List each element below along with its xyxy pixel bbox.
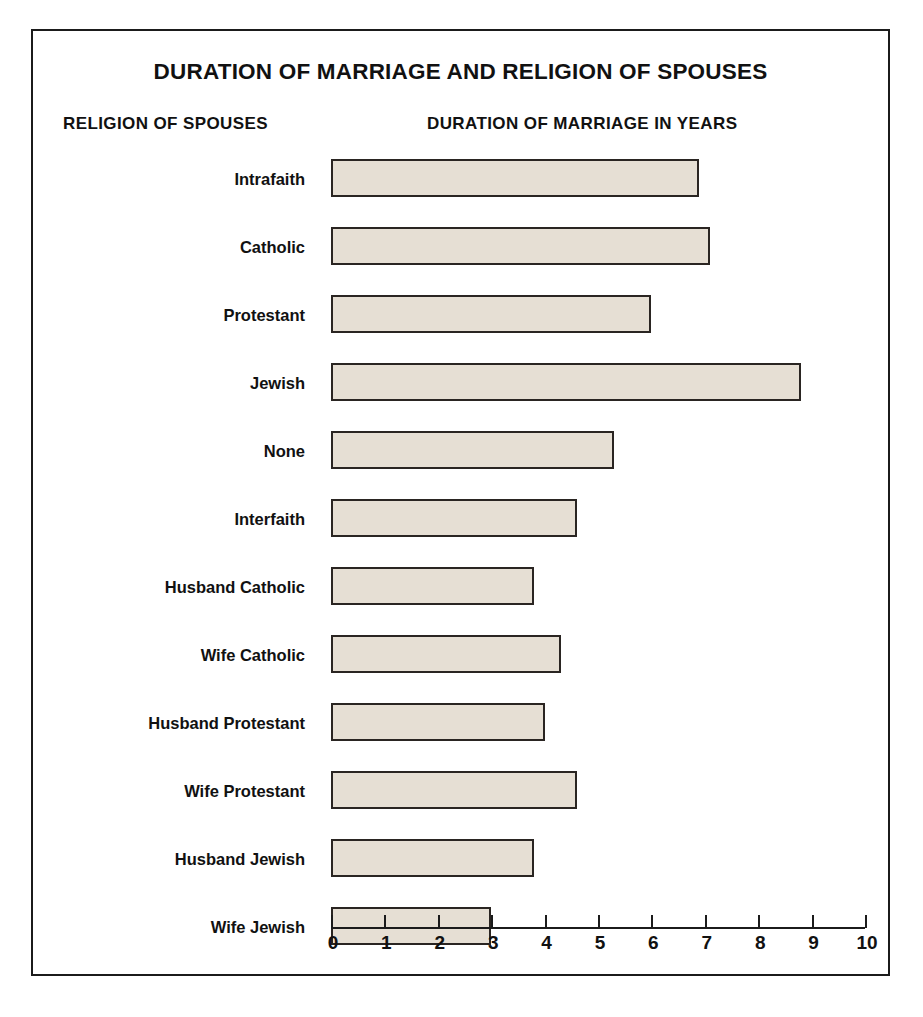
bar-category-label: Intrafaith bbox=[33, 157, 305, 201]
bar-row: None bbox=[33, 429, 888, 473]
x-axis-tick-label: 5 bbox=[585, 932, 615, 954]
bar-category-label: Protestant bbox=[33, 293, 305, 337]
bar-category-label: Jewish bbox=[33, 361, 305, 405]
chart-frame: DURATION OF MARRIAGE AND RELIGION OF SPO… bbox=[31, 29, 890, 976]
bar-category-label: Husband Catholic bbox=[33, 565, 305, 609]
bar bbox=[331, 635, 561, 673]
bar-row: Husband Catholic bbox=[33, 565, 888, 609]
bar-category-label: Husband Protestant bbox=[33, 701, 305, 745]
bar-category-label: Wife Protestant bbox=[33, 769, 305, 813]
bar-row: Husband Protestant bbox=[33, 701, 888, 745]
x-axis-tick-label: 9 bbox=[799, 932, 829, 954]
bar-category-label: Husband Jewish bbox=[33, 837, 305, 881]
bar bbox=[331, 295, 651, 333]
x-axis-tick-label: 6 bbox=[638, 932, 668, 954]
bar-row: Wife Catholic bbox=[33, 633, 888, 677]
bar-row: Interfaith bbox=[33, 497, 888, 541]
bar bbox=[331, 227, 710, 265]
plot-area: IntrafaithCatholicProtestantJewishNoneIn… bbox=[33, 31, 888, 974]
bar-row: Jewish bbox=[33, 361, 888, 405]
bar bbox=[331, 703, 545, 741]
bar-category-label: None bbox=[33, 429, 305, 473]
bar bbox=[331, 431, 614, 469]
bar-row: Protestant bbox=[33, 293, 888, 337]
bar bbox=[331, 839, 534, 877]
x-axis-tick-label: 2 bbox=[425, 932, 455, 954]
bar-row: Catholic bbox=[33, 225, 888, 269]
x-axis-tick-label: 7 bbox=[692, 932, 722, 954]
bar bbox=[331, 363, 801, 401]
x-axis-tick-label: 0 bbox=[318, 932, 348, 954]
x-axis-tick-label: 4 bbox=[532, 932, 562, 954]
bar bbox=[331, 907, 491, 945]
figure: DURATION OF MARRIAGE AND RELIGION OF SPO… bbox=[0, 0, 923, 1017]
bar bbox=[331, 159, 699, 197]
bar bbox=[331, 771, 577, 809]
bar bbox=[331, 567, 534, 605]
bar-row: Intrafaith bbox=[33, 157, 888, 201]
bar-category-label: Catholic bbox=[33, 225, 305, 269]
x-axis-tick-label: 10 bbox=[852, 932, 882, 954]
bar-category-label: Wife Jewish bbox=[33, 905, 305, 949]
x-axis-line bbox=[331, 927, 865, 929]
x-axis-tick-label: 1 bbox=[371, 932, 401, 954]
bar-row: Wife Protestant bbox=[33, 769, 888, 813]
bar-row: Husband Jewish bbox=[33, 837, 888, 881]
bar bbox=[331, 499, 577, 537]
bar-category-label: Wife Catholic bbox=[33, 633, 305, 677]
x-axis-tick bbox=[865, 915, 867, 928]
x-axis-tick-label: 8 bbox=[745, 932, 775, 954]
x-axis-tick-label: 3 bbox=[478, 932, 508, 954]
bar-category-label: Interfaith bbox=[33, 497, 305, 541]
